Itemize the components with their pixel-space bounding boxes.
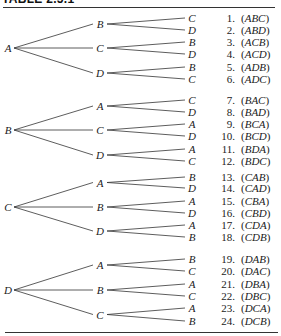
tree-root-node: C bbox=[4, 201, 11, 213]
permutation-text: ABC bbox=[245, 12, 266, 24]
tree-branch-node: A bbox=[97, 259, 104, 271]
permutation-text: ACD bbox=[245, 48, 267, 60]
row-number: 15. bbox=[211, 195, 235, 207]
tree-branch-node: C bbox=[96, 42, 103, 54]
row-number: 17. bbox=[211, 219, 235, 231]
row-number: 16. bbox=[211, 207, 235, 219]
tree-diagram bbox=[0, 0, 281, 336]
permutation: (DCA) bbox=[241, 302, 270, 314]
permutation: (DAB) bbox=[241, 253, 270, 265]
row-number: 6. bbox=[211, 73, 235, 85]
tree-leaf-node: D bbox=[188, 130, 196, 142]
tree-leaf-node: C bbox=[188, 290, 195, 302]
tree-leaf-node: D bbox=[188, 24, 196, 36]
tree-leaf-node: C bbox=[188, 265, 195, 277]
row-number: 12. bbox=[211, 155, 235, 167]
permutation: (ABC) bbox=[241, 12, 269, 24]
tree-branch-node: C bbox=[96, 124, 103, 136]
tree-branch-node: D bbox=[96, 225, 104, 237]
permutation-text: CBA bbox=[245, 195, 266, 207]
permutation-text: DAB bbox=[245, 253, 266, 265]
row-number: 1. bbox=[211, 12, 235, 24]
permutation-text: ABD bbox=[245, 24, 266, 36]
permutation-text: DBC bbox=[245, 290, 267, 302]
row-number: 24. bbox=[211, 315, 235, 327]
row-number: 2. bbox=[211, 24, 235, 36]
tree-leaf-node: D bbox=[188, 182, 196, 194]
row-number: 3. bbox=[211, 36, 235, 48]
permutation: (DCB) bbox=[241, 315, 270, 327]
permutation: (BAC) bbox=[241, 94, 269, 106]
permutation-text: ADB bbox=[245, 61, 266, 73]
tree-leaf-node: A bbox=[189, 302, 196, 314]
tree-branch-node: D bbox=[96, 67, 104, 79]
row-number: 8. bbox=[211, 106, 235, 118]
permutation-text: DCA bbox=[245, 302, 267, 314]
row-number: 18. bbox=[211, 231, 235, 243]
permutation-text: CDB bbox=[245, 231, 267, 243]
permutation-text: DCB bbox=[245, 315, 267, 327]
row-number: 14. bbox=[211, 182, 235, 194]
row-number: 11. bbox=[211, 143, 235, 155]
tree-leaf-node: B bbox=[189, 61, 196, 73]
permutation: (ACB) bbox=[241, 36, 269, 48]
tree-leaf-node: B bbox=[189, 36, 196, 48]
tree-leaf-node: C bbox=[188, 94, 195, 106]
permutation-text: ACB bbox=[245, 36, 266, 48]
permutation: (DBC) bbox=[241, 290, 270, 302]
permutation: (BCD) bbox=[241, 130, 270, 142]
tree-leaf-node: A bbox=[189, 278, 196, 290]
row-number: 5. bbox=[211, 61, 235, 73]
tree-leaf-node: B bbox=[189, 253, 196, 265]
permutation: (BDA) bbox=[241, 143, 270, 155]
tree-leaf-node: D bbox=[188, 48, 196, 60]
tree-leaf-node: A bbox=[189, 219, 196, 231]
row-number: 20. bbox=[211, 265, 235, 277]
tree-branch-node: C bbox=[96, 309, 103, 321]
tree-branch-node: A bbox=[97, 100, 104, 112]
tree-leaf-node: C bbox=[188, 155, 195, 167]
permutation-text: DBA bbox=[245, 278, 266, 290]
tree-leaf-node: B bbox=[189, 231, 196, 243]
permutation-text: CDA bbox=[245, 219, 267, 231]
permutation: (CBA) bbox=[241, 195, 269, 207]
tree-leaf-node: B bbox=[189, 315, 196, 327]
row-number: 4. bbox=[211, 48, 235, 60]
row-number: 19. bbox=[211, 253, 235, 265]
tree-branch-node: B bbox=[97, 201, 104, 213]
tree-leaf-node: D bbox=[188, 106, 196, 118]
tree-leaf-node: C bbox=[188, 73, 195, 85]
permutation: (CAD) bbox=[241, 182, 270, 194]
tree-branch-node: A bbox=[97, 177, 104, 189]
tree-leaf-node: A bbox=[189, 118, 196, 130]
permutation-text: CBD bbox=[245, 207, 267, 219]
permutation: (ADC) bbox=[241, 73, 270, 85]
permutation-text: BCD bbox=[245, 130, 267, 142]
permutation: (BDC) bbox=[241, 155, 270, 167]
row-number: 23. bbox=[211, 302, 235, 314]
permutation: (BCA) bbox=[241, 118, 269, 130]
row-number: 22. bbox=[211, 290, 235, 302]
tree-root-node: B bbox=[5, 124, 12, 136]
tree-branch-node: B bbox=[97, 284, 104, 296]
tree-root-node: A bbox=[5, 42, 12, 54]
permutation-text: CAD bbox=[245, 182, 267, 194]
permutation-text: BCA bbox=[245, 118, 266, 130]
permutation: (DBA) bbox=[241, 278, 270, 290]
permutation-text: BAC bbox=[245, 94, 266, 106]
permutation-text: BDA bbox=[245, 143, 266, 155]
permutation: (CDB) bbox=[241, 231, 270, 243]
permutation: (CBD) bbox=[241, 207, 270, 219]
tree-leaf-node: A bbox=[189, 143, 196, 155]
tree-leaf-node: D bbox=[188, 207, 196, 219]
permutation: (BAD) bbox=[241, 106, 270, 118]
permutation: (CDA) bbox=[241, 219, 270, 231]
permutation-text: BAD bbox=[245, 106, 266, 118]
row-number: 10. bbox=[211, 130, 235, 142]
tree-root-node: D bbox=[4, 284, 12, 296]
tree-leaf-node: C bbox=[188, 12, 195, 24]
permutation: (DAC) bbox=[241, 265, 270, 277]
row-number: 9. bbox=[211, 118, 235, 130]
tree-leaf-node: A bbox=[189, 195, 196, 207]
permutation: (ACD) bbox=[241, 48, 270, 60]
